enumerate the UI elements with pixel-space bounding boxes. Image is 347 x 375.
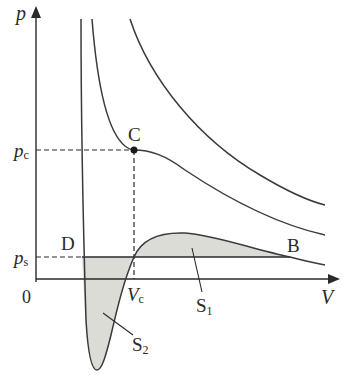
s1-label: S1 [196, 295, 213, 318]
x-axis-label: V [321, 286, 336, 308]
isotherm-high [130, 19, 325, 205]
vc-label: Vc [127, 284, 144, 306]
diagram-canvas: p V 0 pc ps Vc C D B S1 S2 [0, 0, 347, 375]
point-d-label: D [61, 233, 75, 254]
isotherm-critical [92, 19, 325, 235]
ps-label: ps [12, 247, 29, 269]
pc-label: pc [12, 140, 29, 162]
y-axis-arrow-icon [31, 6, 41, 18]
critical-point-c [131, 147, 138, 154]
origin-label: 0 [22, 287, 31, 307]
s2-label: S2 [132, 334, 149, 357]
x-axis-arrow-icon [328, 274, 340, 284]
y-axis-label: p [14, 2, 26, 25]
pv-diagram: p V 0 pc ps Vc C D B S1 S2 [0, 0, 347, 375]
isotherm-low [81, 19, 325, 370]
point-c-label: C [128, 124, 141, 145]
point-b-label: B [287, 235, 300, 256]
